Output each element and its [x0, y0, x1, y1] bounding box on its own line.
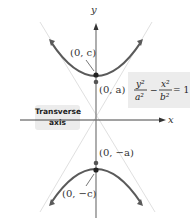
callout-line-2: axis	[35, 117, 80, 128]
focus-point-bottom	[93, 167, 98, 172]
vertex-point-bottom	[94, 161, 99, 166]
x-axis-arrow-icon	[159, 118, 166, 123]
vertex-label-top: (0, a)	[99, 84, 126, 95]
hyperbola-equation: y² a² − x² b² = 1	[134, 79, 189, 102]
leader-line	[86, 174, 94, 186]
vertex-point-top	[94, 80, 99, 85]
y-axis-label: y	[90, 4, 97, 15]
focus-point-top	[93, 72, 98, 77]
equation-numerator-1: y²	[135, 79, 145, 89]
focus-label-top: (0, c)	[70, 47, 96, 58]
equation-operator: −	[150, 85, 158, 95]
leader-line	[86, 60, 94, 71]
y-axis-arrow-icon	[94, 23, 99, 30]
focus-label-bottom: (0, −c)	[62, 188, 97, 199]
transverse-axis-callout: Transverse axis	[35, 106, 80, 128]
vertex-label-bottom: (0, −a)	[99, 147, 134, 158]
hyperbola-diagram: y x (0, c) (0, a) (0, −a) (0, −c) y² a² …	[0, 0, 196, 224]
equation-rhs: = 1	[173, 85, 189, 95]
equation-denominator-2: b²	[160, 92, 170, 102]
x-axis-label: x	[168, 114, 174, 125]
equation-denominator-1: a²	[135, 92, 144, 102]
callout-line-1: Transverse	[35, 106, 80, 117]
equation-numerator-2: x²	[161, 79, 170, 89]
